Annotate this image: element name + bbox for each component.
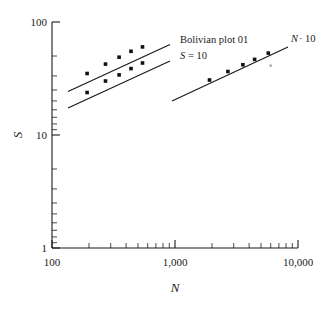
data-point-marker xyxy=(141,45,145,49)
y-axis-title: S xyxy=(10,131,25,138)
annotation-s-value: = 10 xyxy=(188,50,207,61)
data-point-marker xyxy=(104,79,108,83)
data-point-marker xyxy=(85,72,89,76)
data-point-marker xyxy=(104,62,108,66)
data-point-marker xyxy=(85,91,89,95)
data-point-marker xyxy=(129,50,133,54)
y-tick-label-10: 10 xyxy=(36,129,48,141)
data-point-marker xyxy=(267,51,271,55)
x-axis-title: N xyxy=(170,280,181,295)
annotation-n-times-10: N · 10 xyxy=(290,33,316,44)
annotation-s-symbol: S xyxy=(180,50,186,61)
faint-stray-dot xyxy=(270,65,272,67)
annotation-bolivian-plot-01: Bolivian plot 01 xyxy=(180,34,248,45)
y-tick-label-1: 1 xyxy=(42,242,48,254)
data-point-marker xyxy=(253,58,257,62)
y-tick-label-100: 100 xyxy=(31,16,48,28)
loglog-scatter-plot: 100 10 1 100 1,000 10,000 S N xyxy=(0,0,328,310)
data-point-marker xyxy=(241,63,245,67)
data-point-marker xyxy=(208,78,212,82)
annotation-n-multiplier: · 10 xyxy=(299,33,316,44)
data-point-marker xyxy=(117,55,121,59)
annotation-n-symbol: N xyxy=(290,33,299,44)
annotation-s-equals-10: S = 10 xyxy=(180,50,207,61)
data-point-marker xyxy=(129,67,133,71)
chart-figure: 100 10 1 100 1,000 10,000 S N xyxy=(0,0,328,310)
x-tick-label-1000: 1,000 xyxy=(163,256,188,268)
data-point-marker xyxy=(226,70,230,74)
x-tick-label-10000: 10,000 xyxy=(283,256,314,268)
x-tick-label-100: 100 xyxy=(44,256,61,268)
data-point-marker xyxy=(117,73,121,77)
data-point-marker xyxy=(141,61,145,65)
